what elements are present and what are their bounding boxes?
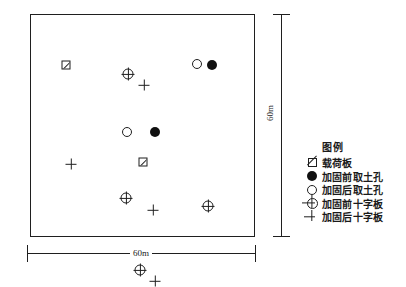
plan-marker-vane-after-top xyxy=(139,80,150,91)
site-boundary-box xyxy=(30,14,255,237)
plan-marker-plate-center xyxy=(139,158,148,167)
filled-circle-icon xyxy=(307,171,317,181)
plan-marker-hole-after-center xyxy=(122,127,132,137)
legend-label: 加固后十字板 xyxy=(322,209,383,224)
plan-marker-vane-before-center xyxy=(121,193,132,204)
vertical-dimension-label: 60m xyxy=(265,104,275,122)
legend: 图例 载荷板加固前取土孔加固后取土孔加固前十字板加固后十字板 xyxy=(304,139,404,224)
plan-marker-hole-after-top xyxy=(192,59,202,69)
vertical-dimension-tick-top xyxy=(273,14,290,15)
legend-symbol-vane-after xyxy=(304,210,320,223)
vertical-dimension-line xyxy=(281,14,282,237)
legend-item-load-plate: 载荷板 xyxy=(304,156,404,170)
legend-item-hole-before: 加固前取土孔 xyxy=(304,170,404,184)
plan-marker-vane-after-bottom xyxy=(150,276,161,287)
load-plate-icon xyxy=(308,158,317,167)
legend-item-hole-after: 加固后取土孔 xyxy=(304,183,404,197)
plan-marker-vane-before-top xyxy=(123,69,134,80)
legend-item-vane-before: 加固前十字板 xyxy=(304,197,404,211)
horizontal-dimension-tick-left xyxy=(27,245,28,262)
legend-item-vane-after: 加固后十字板 xyxy=(304,210,404,224)
horizontal-dimension-tick-right xyxy=(255,245,256,262)
plus-icon xyxy=(307,211,318,222)
crossed-circle-icon xyxy=(307,198,318,209)
plan-marker-vane-after-left xyxy=(66,159,77,170)
legend-symbol-hole-before xyxy=(304,170,320,183)
plan-marker-vane-after-center xyxy=(148,205,159,216)
plan-marker-hole-before-top xyxy=(207,60,217,70)
plan-marker-vane-before-right xyxy=(203,201,214,212)
plan-marker-plate-upper-left xyxy=(62,61,71,70)
legend-symbol-vane-before xyxy=(304,197,320,210)
legend-title: 图例 xyxy=(322,139,404,154)
horizontal-dimension-label: 60m xyxy=(130,248,152,258)
legend-symbol-load-plate xyxy=(304,156,320,169)
plan-marker-vane-before-bottom xyxy=(135,265,146,276)
vertical-dimension-tick-bottom xyxy=(273,236,290,237)
plan-marker-hole-before-center xyxy=(150,127,160,137)
open-circle-icon xyxy=(307,185,317,195)
legend-items: 载荷板加固前取土孔加固后取土孔加固前十字板加固后十字板 xyxy=(304,156,404,224)
